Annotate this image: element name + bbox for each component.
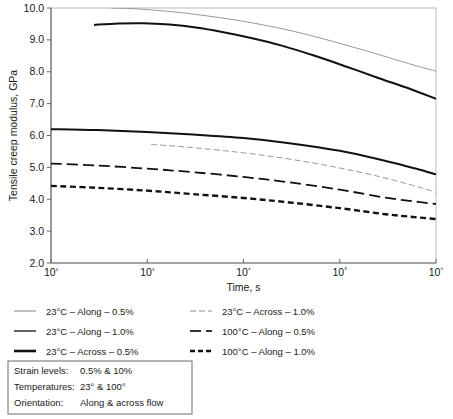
chart-canvas: 2.03.04.05.06.07.08.09.010.010²10³10⁴10⁵… [0, 0, 453, 419]
y-tick-label: 6.0 [29, 129, 44, 141]
series-line-5 [51, 186, 436, 219]
y-tick-label: 9.0 [29, 33, 44, 45]
info-row-label-1: Temperatures: [14, 381, 75, 392]
info-row-label-0: Strain levels: [14, 365, 68, 376]
plot-frame [51, 8, 436, 263]
legend-label-2: 23°C – Across – 0.5% [46, 346, 139, 357]
legend-label-1: 23°C – Along – 1.0% [46, 326, 134, 337]
info-row-value-2: Along & across flow [80, 397, 164, 408]
info-row-label-2: Orientation: [14, 397, 63, 408]
creep-modulus-figure: 2.03.04.05.06.07.08.09.010.010²10³10⁴10⁵… [0, 0, 453, 419]
x-axis-title: Time, s [226, 281, 260, 293]
y-tick-label: 7.0 [29, 97, 44, 109]
series-line-2 [51, 129, 436, 174]
x-tick-label: 10² [44, 266, 59, 278]
info-row-value-0: 0.5% & 10% [80, 365, 133, 376]
legend-label-3: 23°C – Across – 1.0% [222, 306, 315, 317]
x-tick-label: 10³ [140, 266, 155, 278]
y-tick-label: 2.0 [29, 257, 44, 269]
x-tick-label: 10⁶ [429, 266, 444, 278]
series-line-0 [111, 8, 436, 71]
y-tick-label: 5.0 [29, 161, 44, 173]
series-line-3 [151, 144, 436, 192]
y-tick-label: 10.0 [24, 2, 45, 14]
legend-label-0: 23°C – Along – 0.5% [46, 306, 134, 317]
y-tick-label: 3.0 [29, 225, 44, 237]
x-tick-label: 10⁵ [332, 266, 347, 278]
y-tick-label: 4.0 [29, 193, 44, 205]
legend-label-5: 100°C – Along – 1.0% [222, 346, 316, 357]
y-axis-title: Tensile creep modulus, GPa [7, 70, 19, 201]
info-row-value-1: 23° & 100° [80, 381, 126, 392]
series-line-1 [94, 23, 436, 99]
y-tick-label: 8.0 [29, 65, 44, 77]
x-tick-label: 10⁴ [236, 266, 251, 278]
legend-label-4: 100°C – Along – 0.5% [222, 326, 316, 337]
